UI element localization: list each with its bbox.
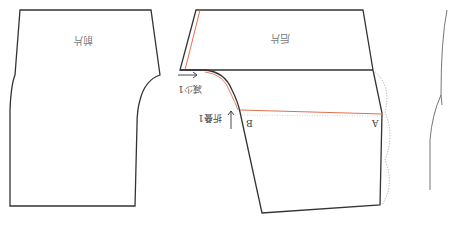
- front-piece-label: 前片: [73, 34, 93, 49]
- back-piece-lower-outline: [180, 70, 382, 213]
- side-seam-curve: [430, 10, 447, 190]
- fold-line-ab: [240, 110, 383, 114]
- yoke-adjustment-line: [185, 10, 200, 70]
- fold-arrow-icon: [228, 111, 234, 129]
- fold-reference-line: [242, 115, 382, 116]
- point-a-label: A: [372, 118, 379, 128]
- point-b-label: B: [246, 118, 253, 128]
- fold-note-label: 折叠1: [198, 112, 222, 125]
- pattern-drawing: [0, 0, 475, 226]
- reduce-note-label: 减少1: [178, 83, 202, 96]
- back-piece-label: 后片: [270, 32, 290, 47]
- reduce-arrow-icon: [178, 72, 197, 78]
- pattern-diagram: 前片 后片 减少1 折叠1 B A: [0, 0, 475, 226]
